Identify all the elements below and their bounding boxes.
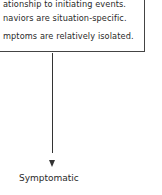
connector-line — [52, 53, 53, 153]
box-text-line-3: mptoms are relatively isolated. — [3, 31, 134, 41]
arrow-down-icon — [49, 160, 55, 167]
box-text-line-1: ationship to initiating events. — [3, 0, 126, 9]
node-label-symptomatic: Symptomatic — [19, 173, 79, 183]
box-text-line-2: naviors are situation-specific. — [3, 13, 127, 23]
